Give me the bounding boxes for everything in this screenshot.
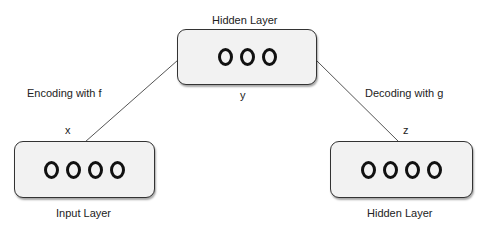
input-layer-box — [14, 141, 155, 198]
encoding-edge-label: Encoding with f — [27, 87, 102, 99]
right-layer-title: Hidden Layer — [367, 207, 432, 219]
right-hidden-layer-box — [330, 141, 473, 198]
top-hidden-layer-box — [177, 29, 317, 85]
neuron-node — [361, 161, 376, 179]
neuron-node — [383, 161, 398, 179]
neuron-node — [427, 161, 442, 179]
neuron-node — [405, 161, 420, 179]
neuron-node — [66, 161, 81, 179]
top-layer-variable: y — [240, 89, 246, 101]
neuron-node — [88, 161, 103, 179]
neuron-node — [44, 161, 59, 179]
neuron-node — [262, 48, 277, 66]
decoding-edge-label: Decoding with g — [365, 87, 443, 99]
left-layer-variable: x — [65, 124, 71, 136]
neuron-node — [218, 48, 233, 66]
neuron-node — [240, 48, 255, 66]
right-layer-variable: z — [403, 124, 409, 136]
top-layer-title: Hidden Layer — [212, 14, 277, 26]
neuron-node — [110, 161, 125, 179]
left-layer-title: Input Layer — [56, 207, 111, 219]
